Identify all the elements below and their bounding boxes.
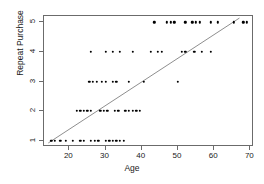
x-tick-label: 20 bbox=[64, 151, 73, 160]
x-tick-label: 70 bbox=[245, 151, 254, 160]
x-tick-label: 30 bbox=[100, 151, 109, 160]
x-tick-label: 50 bbox=[173, 151, 182, 160]
x-tick-mark bbox=[141, 146, 142, 150]
x-tick-mark bbox=[213, 146, 214, 150]
regression-line bbox=[44, 16, 252, 145]
y-tick-mark bbox=[39, 110, 43, 111]
y-tick-label: 4 bbox=[28, 49, 37, 53]
y-tick-label: 1 bbox=[28, 137, 37, 141]
x-tick-mark bbox=[249, 146, 250, 150]
plot-area bbox=[43, 15, 253, 146]
y-tick-mark bbox=[39, 51, 43, 52]
y-tick-mark bbox=[39, 21, 43, 22]
y-tick-label: 2 bbox=[28, 108, 37, 112]
x-tick-label: 60 bbox=[209, 151, 218, 160]
y-tick-mark bbox=[39, 140, 43, 141]
x-tick-mark bbox=[105, 146, 106, 150]
y-tick-label: 3 bbox=[28, 78, 37, 82]
y-tick-mark bbox=[39, 81, 43, 82]
scatter-chart: 203040506070 12345 Age Repeat Purchase bbox=[0, 0, 264, 184]
x-tick-label: 40 bbox=[136, 151, 145, 160]
y-axis-title: Repeat Purchase bbox=[15, 0, 25, 93]
x-tick-mark bbox=[68, 146, 69, 150]
x-axis-title: Age bbox=[0, 163, 264, 173]
x-tick-mark bbox=[177, 146, 178, 150]
y-tick-label: 5 bbox=[28, 19, 37, 23]
